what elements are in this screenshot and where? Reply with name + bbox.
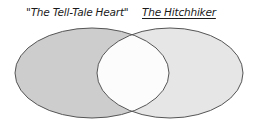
venn-diagram (0, 0, 255, 134)
